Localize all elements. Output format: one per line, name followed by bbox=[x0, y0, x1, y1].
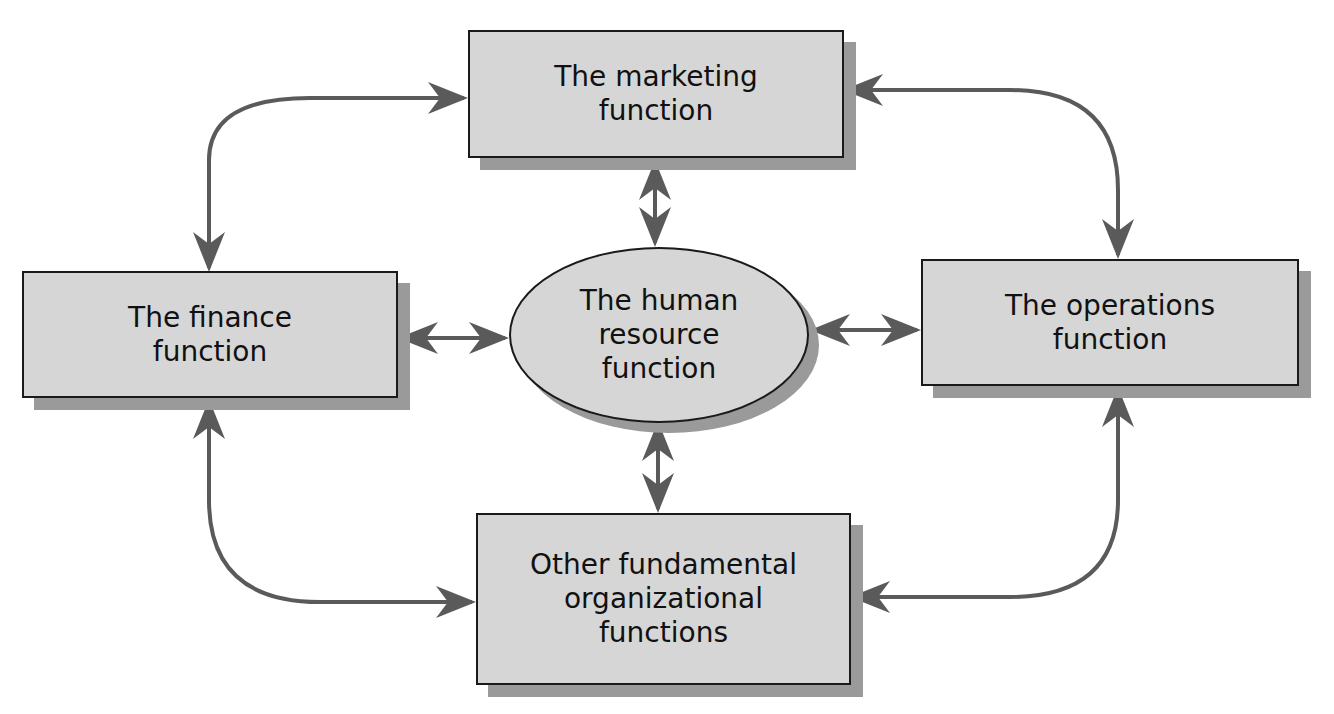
other-functions-box: Other fundamental organizational functio… bbox=[476, 513, 851, 685]
arrow-marketing-operations bbox=[847, 90, 1118, 255]
finance-function-label: The finance function bbox=[128, 301, 292, 369]
operations-function-label: The operations function bbox=[1005, 289, 1215, 357]
human-resource-function-label: The human resource function bbox=[580, 284, 739, 386]
human-resource-function-ellipse: The human resource function bbox=[509, 247, 809, 423]
marketing-function-box: The marketing function bbox=[468, 30, 844, 158]
arrow-finance-other bbox=[209, 403, 472, 602]
marketing-function-label: The marketing function bbox=[554, 60, 758, 128]
finance-function-box: The finance function bbox=[22, 271, 398, 398]
arrow-finance-marketing bbox=[209, 98, 464, 268]
arrow-operations-other bbox=[854, 391, 1118, 597]
operations-function-box: The operations function bbox=[921, 259, 1299, 386]
other-functions-label: Other fundamental organizational functio… bbox=[530, 548, 797, 650]
